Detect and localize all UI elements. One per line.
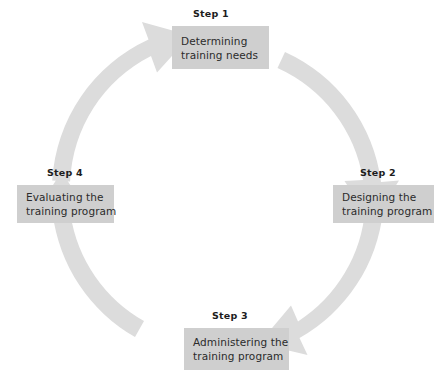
step-1-text-line-1: Determining	[181, 34, 269, 48]
cycle-diagram: Step 1 Determining training needs Step 2…	[0, 0, 434, 384]
step-3-box: Administering the training program	[184, 328, 289, 370]
step-2-box: Designing the training program	[333, 185, 434, 223]
step-2-text-line-1: Designing the	[342, 190, 434, 204]
step-3-text-line-1: Administering the	[193, 335, 289, 349]
step-4-text-line-2: training program	[26, 204, 114, 218]
step-1-label: Step 1	[193, 8, 229, 19]
step-2-text-line-2: training program	[342, 204, 434, 218]
step-2-label: Step 2	[360, 167, 396, 178]
step-3-text-line-2: training program	[193, 349, 289, 363]
step-4-label: Step 4	[47, 167, 83, 178]
step-4-box: Evaluating the training program	[17, 185, 114, 223]
step-3-label: Step 3	[212, 310, 248, 321]
step-4-text-line-1: Evaluating the	[26, 190, 114, 204]
step-1-box: Determining training needs	[172, 26, 269, 69]
arrow-step4-to-step1	[52, 22, 190, 182]
step-1-text-line-2: training needs	[181, 48, 269, 62]
